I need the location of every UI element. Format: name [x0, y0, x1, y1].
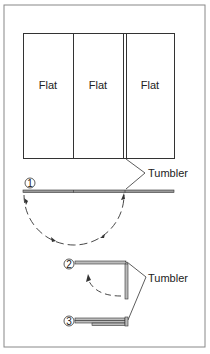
- arrow-head-4: [121, 193, 125, 200]
- flat-2: [74, 34, 124, 159]
- tumbler-callout-line-top: [126, 159, 145, 189]
- step-1-swing-arc: [24, 195, 124, 245]
- tumbler-flats-diagram: Flat Flat Flat Tumbler 1 2 Tumbler 3: [0, 0, 210, 354]
- step-2-swing-arc: [88, 279, 121, 296]
- tumbler-callout-line-bottom: [127, 262, 146, 320]
- step-2-flat-horizontal: [75, 261, 126, 264]
- arrow-head-2: [51, 237, 56, 242]
- flat-label-1: Flat: [39, 79, 57, 91]
- step-2-number: 2: [66, 259, 72, 270]
- flat-3: [127, 34, 175, 159]
- flat-label-2: Flat: [89, 79, 107, 91]
- flat-1: [24, 34, 74, 159]
- step-3-flat-1: [75, 318, 125, 321]
- step-3-flat-2: [75, 321, 125, 324]
- step-3-flat-3: [92, 323, 125, 326]
- step-2-arrow-head: [86, 274, 91, 282]
- flats-group: [24, 34, 175, 159]
- tumbler-label-bottom: Tumbler: [148, 272, 188, 284]
- step-2-flat-vertical: [125, 264, 128, 299]
- arrow-head-3: [100, 234, 105, 238]
- step-3-number: 3: [66, 316, 72, 327]
- flat-label-3: Flat: [141, 79, 159, 91]
- step-1-number: 1: [27, 178, 33, 189]
- step-3-tumbler: [125, 317, 128, 326]
- step-1-flat-bar: [23, 190, 174, 193]
- tumbler-label-top: Tumbler: [148, 167, 188, 179]
